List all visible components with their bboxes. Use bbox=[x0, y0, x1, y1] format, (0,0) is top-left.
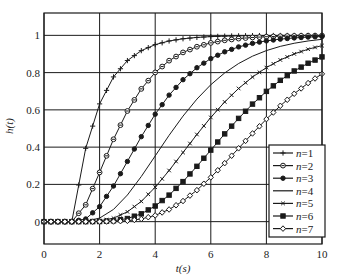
square-marker-icon bbox=[146, 208, 150, 212]
legend-label: n=4 bbox=[296, 185, 314, 197]
dot-marker-icon bbox=[125, 159, 129, 163]
dot-marker-icon bbox=[313, 35, 317, 39]
dot-marker-icon bbox=[236, 45, 240, 49]
square-marker-icon bbox=[243, 109, 247, 113]
dot-marker-icon bbox=[292, 36, 296, 40]
square-marker-icon bbox=[167, 193, 171, 197]
x-marker-icon bbox=[223, 100, 227, 104]
x-tick-label: 10 bbox=[317, 248, 329, 260]
y-tick-label: 0 bbox=[35, 216, 41, 228]
dot-marker-icon bbox=[223, 50, 227, 54]
plus-marker-icon bbox=[160, 40, 165, 45]
dot-marker-icon bbox=[90, 211, 94, 215]
x-axis-ticks: 0246810 bbox=[41, 248, 328, 260]
dot-marker-icon bbox=[146, 123, 150, 127]
y-tick-label: 0.4 bbox=[26, 141, 40, 153]
y-tick-label: 0.2 bbox=[26, 178, 40, 190]
x-marker-icon bbox=[237, 87, 241, 91]
x-marker-icon bbox=[272, 62, 276, 66]
y-axis-ticks: 00.20.40.60.81 bbox=[26, 29, 40, 227]
dot-marker-icon bbox=[229, 47, 233, 51]
legend: n=1n=2n=3n=4n=5n=6n=7 bbox=[269, 145, 325, 237]
dot-marker-icon bbox=[299, 35, 303, 39]
dot-marker-icon bbox=[306, 35, 310, 39]
x-marker-icon bbox=[244, 81, 248, 85]
y-tick-label: 1 bbox=[35, 29, 41, 41]
square-marker-icon bbox=[236, 116, 240, 120]
dot-marker-icon bbox=[264, 39, 268, 43]
diamond-marker-icon bbox=[153, 213, 158, 219]
x-tick-label: 2 bbox=[97, 248, 103, 260]
legend-label: n=2 bbox=[296, 160, 313, 172]
diamond-marker-icon bbox=[173, 202, 178, 208]
x-marker-icon bbox=[174, 160, 178, 164]
square-marker-icon bbox=[281, 214, 285, 218]
square-marker-icon bbox=[229, 124, 233, 128]
dot-marker-icon bbox=[257, 40, 261, 44]
diamond-marker-icon bbox=[167, 207, 172, 213]
diamond-marker-icon bbox=[146, 214, 151, 220]
x-tick-label: 0 bbox=[41, 248, 47, 260]
dot-marker-icon bbox=[195, 65, 199, 69]
square-marker-icon bbox=[264, 89, 268, 93]
square-marker-icon bbox=[285, 73, 289, 77]
square-marker-icon bbox=[216, 140, 220, 144]
plus-marker-icon bbox=[180, 36, 185, 41]
y-tick-label: 0.6 bbox=[26, 104, 40, 116]
x-tick-label: 8 bbox=[264, 248, 270, 260]
dot-marker-icon bbox=[188, 72, 192, 76]
legend-label: n=1 bbox=[296, 147, 313, 159]
dot-marker-icon bbox=[202, 61, 206, 65]
diamond-marker-icon bbox=[160, 210, 165, 216]
diamond-marker-icon bbox=[139, 216, 144, 222]
square-marker-icon bbox=[278, 78, 282, 82]
square-marker-icon bbox=[271, 84, 275, 88]
x-marker-icon bbox=[202, 124, 206, 128]
dot-marker-icon bbox=[97, 204, 101, 208]
dot-marker-icon bbox=[278, 37, 282, 41]
plus-marker-icon bbox=[167, 38, 172, 43]
square-marker-icon bbox=[292, 69, 296, 73]
step-response-chart: 0246810 00.20.40.60.81 t(s) h(t) n=1n=2n… bbox=[0, 0, 341, 278]
plus-marker-icon bbox=[76, 182, 81, 187]
x-marker-icon bbox=[188, 142, 192, 146]
dot-marker-icon bbox=[216, 53, 220, 57]
square-marker-icon bbox=[202, 156, 206, 160]
x-axis-label: t(s) bbox=[176, 262, 191, 275]
square-marker-icon bbox=[209, 148, 213, 152]
plus-marker-icon bbox=[187, 35, 192, 40]
plus-marker-icon bbox=[153, 42, 158, 47]
dot-marker-icon bbox=[118, 172, 122, 176]
x-marker-icon bbox=[195, 133, 199, 137]
dot-marker-icon bbox=[209, 56, 213, 60]
legend-label: n=5 bbox=[296, 197, 314, 209]
x-marker-icon bbox=[181, 151, 185, 155]
legend-label: n=3 bbox=[296, 172, 314, 184]
square-marker-icon bbox=[195, 164, 199, 168]
square-marker-icon bbox=[174, 186, 178, 190]
x-marker-icon bbox=[167, 169, 171, 173]
square-marker-icon bbox=[188, 172, 192, 176]
x-marker-icon bbox=[126, 210, 130, 214]
dot-marker-icon bbox=[174, 85, 178, 89]
plus-marker-icon bbox=[146, 45, 151, 50]
x-marker-icon bbox=[146, 193, 150, 197]
dot-marker-icon bbox=[243, 43, 247, 47]
plus-marker-icon bbox=[173, 37, 178, 42]
x-marker-icon bbox=[285, 55, 289, 59]
x-marker-icon bbox=[279, 58, 283, 62]
square-marker-icon bbox=[139, 212, 143, 216]
diamond-marker-icon bbox=[312, 76, 317, 82]
legend-label: n=7 bbox=[296, 223, 314, 235]
plus-marker-icon bbox=[90, 124, 95, 129]
square-marker-icon bbox=[299, 65, 303, 69]
dot-marker-icon bbox=[167, 93, 171, 97]
legend-label: n=6 bbox=[296, 210, 314, 222]
x-tick-label: 4 bbox=[152, 248, 158, 260]
plus-marker-icon bbox=[104, 88, 109, 93]
y-axis-label: h(t) bbox=[3, 118, 16, 134]
y-tick-label: 0.8 bbox=[26, 67, 40, 79]
dot-marker-icon bbox=[285, 36, 289, 40]
square-marker-icon bbox=[313, 58, 317, 62]
x-marker-icon bbox=[230, 93, 234, 97]
